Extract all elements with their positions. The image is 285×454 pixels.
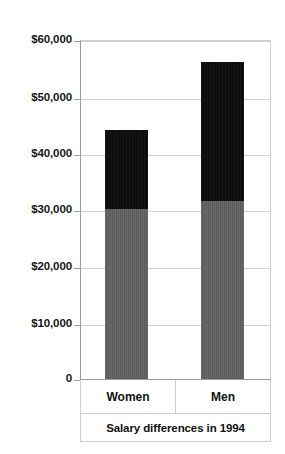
ytick-20000 bbox=[74, 268, 81, 269]
salary-bar-chart: $60,000 $50,000 $40,000 $30,000 $20,000 … bbox=[0, 0, 285, 454]
y-axis-label-0: 0 bbox=[0, 372, 72, 384]
y-axis-label-60000: $60,000 bbox=[0, 33, 72, 45]
bar-men[interactable] bbox=[201, 62, 244, 379]
ytick-50000 bbox=[74, 99, 81, 100]
ytick-60000 bbox=[74, 41, 81, 42]
y-axis-label-50000: $50,000 bbox=[0, 91, 72, 103]
bar-men-upper-segment bbox=[201, 62, 244, 201]
chart-caption: Salary differences in 1994 bbox=[106, 422, 245, 434]
y-axis-label-20000: $20,000 bbox=[0, 260, 72, 272]
ytick-30000 bbox=[74, 211, 81, 212]
ytick-10000 bbox=[74, 325, 81, 326]
caption-row: Salary differences in 1994 bbox=[80, 414, 271, 442]
y-axis-label-30000: $30,000 bbox=[0, 203, 72, 215]
y-axis-label-40000: $40,000 bbox=[0, 147, 72, 159]
bar-women[interactable] bbox=[105, 130, 148, 379]
category-label-women: Women bbox=[81, 380, 175, 413]
category-label-men: Men bbox=[175, 380, 270, 413]
category-axis-row: Women Men bbox=[80, 380, 271, 414]
bar-women-upper-segment bbox=[105, 130, 148, 209]
gridline-60000 bbox=[81, 41, 270, 42]
bar-men-lower-segment bbox=[201, 201, 244, 380]
bar-women-lower-segment bbox=[105, 209, 148, 379]
y-axis-label-10000: $10,000 bbox=[0, 317, 72, 329]
ytick-40000 bbox=[74, 155, 81, 156]
plot-area bbox=[80, 40, 271, 380]
